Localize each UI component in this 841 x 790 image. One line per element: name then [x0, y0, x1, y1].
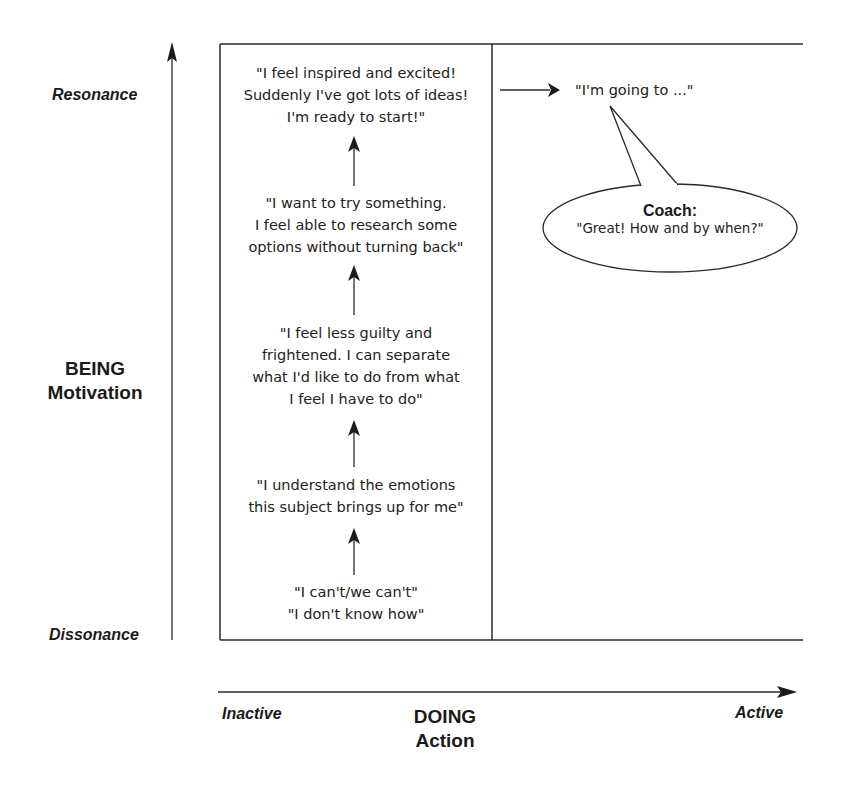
y-axis-top-label: Resonance — [52, 86, 137, 104]
stage-quote-line: "I understand the emotions — [222, 474, 490, 496]
x-axis-title-line2: Action — [390, 729, 500, 753]
stage-arrow-up-icon — [348, 528, 360, 575]
stage-quote-line: this subject brings up for me" — [222, 496, 490, 518]
y-axis-bottom-label: Dissonance — [49, 626, 139, 644]
stage-quote-line: I feel able to research some — [222, 214, 490, 236]
stage-quote-understand-emotions: "I understand the emotions this subject … — [222, 474, 490, 518]
stage-arrow-up-icon — [348, 136, 360, 186]
stage-quote-resonance: "I feel inspired and excited! Suddenly I… — [222, 62, 490, 128]
stage-quote-line: Suddenly I've got lots of ideas! — [222, 84, 490, 106]
stage-quote-line: "I want to try something. — [222, 192, 490, 214]
stage-quote-less-guilty: "I feel less guilty and frightened. I ca… — [222, 322, 490, 410]
x-axis-title: DOING Action — [390, 705, 500, 753]
stage-quote-line: I'm ready to start!" — [222, 106, 490, 128]
x-axis-left-label: Inactive — [222, 705, 282, 723]
x-axis-title-line1: DOING — [390, 705, 500, 729]
stage-quote-line: frightened. I can separate — [222, 344, 490, 366]
stage-arrow-up-icon — [348, 265, 360, 315]
coach-speech-bubble-shape — [543, 106, 797, 272]
y-axis-title: BEING Motivation — [20, 357, 170, 405]
x-axis-right-label: Active — [735, 704, 783, 722]
stage-quote-line: I feel I have to do" — [222, 388, 490, 410]
y-axis-title-line2: Motivation — [20, 381, 170, 405]
coach-title: Coach: — [543, 202, 797, 220]
stage-quote-line: what I'd like to do from what — [222, 366, 490, 388]
stage-quote-try-something: "I want to try something. I feel able to… — [222, 192, 490, 258]
coach-text: "Great! How and by when?" — [543, 220, 797, 236]
stage-quote-line: "I feel inspired and excited! — [222, 62, 490, 84]
action-statement: "I'm going to ..." — [575, 79, 693, 101]
stage-quote-line: options without turning back" — [222, 236, 490, 258]
stage-quote-dissonance: "I can't/we can't" "I don't know how" — [222, 581, 490, 625]
y-axis-title-line1: BEING — [20, 357, 170, 381]
stage-arrow-up-icon — [348, 420, 360, 467]
stage-quote-line: "I can't/we can't" — [222, 581, 490, 603]
stage-quote-line: "I feel less guilty and — [222, 322, 490, 344]
x-axis-arrow — [218, 686, 797, 698]
coach-bubble: Coach: "Great! How and by when?" — [543, 202, 797, 236]
y-axis-arrow — [167, 42, 177, 640]
action-arrow-right-icon — [500, 83, 560, 97]
stage-quote-line: "I don't know how" — [222, 603, 490, 625]
